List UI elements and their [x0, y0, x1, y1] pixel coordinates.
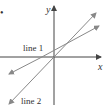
- x-axis-label: x: [97, 61, 103, 72]
- list-bullet: •: [0, 7, 4, 18]
- line-2: line 2: [9, 13, 96, 106]
- line-2-label: line 2: [21, 96, 41, 106]
- y-axis-label: y: [45, 4, 51, 15]
- axes: y x: [0, 4, 103, 105]
- line-1-label: line 1: [23, 43, 43, 53]
- coordinate-diagram: • y x line 1 line 2: [0, 0, 107, 109]
